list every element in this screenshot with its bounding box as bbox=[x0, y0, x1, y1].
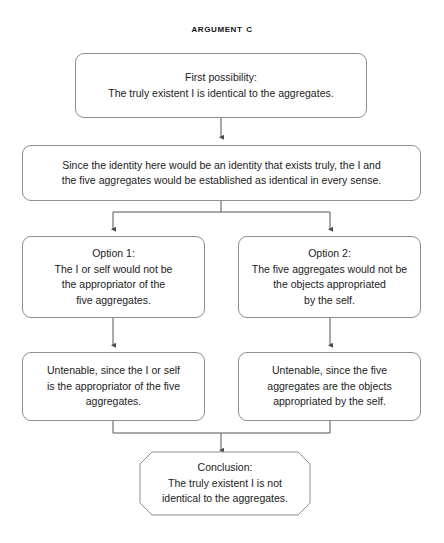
edge-reasoning-split bbox=[113, 201, 330, 229]
node-premise-text: First possibility: The truly existent I … bbox=[108, 70, 333, 101]
node-premise: First possibility: The truly existent I … bbox=[75, 53, 367, 118]
node-refutation-2-text: Untenable, since the five aggregates are… bbox=[267, 363, 391, 410]
node-option-1: Option 1: The I or self would not be the… bbox=[22, 236, 205, 318]
node-option-2: Option 2: The five aggregates would not … bbox=[238, 236, 421, 318]
edge-refutations-merge-to-conclusion bbox=[113, 421, 330, 450]
page-title: Argument C bbox=[0, 22, 444, 34]
node-conclusion: Conclusion: The truly existent I is not … bbox=[140, 452, 310, 515]
node-option-1-text: Option 1: The I or self would not be the… bbox=[55, 246, 173, 308]
node-refutation-1-text: Untenable, since the I or self is the ap… bbox=[47, 363, 180, 410]
node-option-2-text: Option 2: The five aggregates would not … bbox=[252, 246, 407, 308]
node-refutation-1: Untenable, since the I or self is the ap… bbox=[22, 352, 205, 421]
node-reasoning: Since the identity here would be an iden… bbox=[22, 145, 421, 201]
node-reasoning-text: Since the identity here would be an iden… bbox=[62, 158, 381, 189]
node-conclusion-text: Conclusion: The truly existent I is not … bbox=[162, 460, 288, 507]
node-refutation-2: Untenable, since the five aggregates are… bbox=[238, 352, 421, 421]
